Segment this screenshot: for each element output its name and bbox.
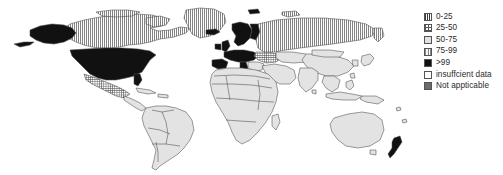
legend-item-50-75: 50-75 [424,34,500,46]
legend-swatch-not-applicable-icon [424,82,432,90]
world-map [0,0,420,175]
legend-item-25-50: 25-50 [424,23,500,35]
legend-swatch-0-25-icon [424,13,432,21]
region-iberia [212,59,228,69]
legend-swatch-insufficient-data-icon [424,71,432,79]
legend-label-50-75: 50-75 [436,36,457,44]
region-mongolia [312,50,344,57]
legend-item-0-25: 0-25 [424,11,500,23]
choropleth-figure: 0-25 25-50 50-75 75-99 >99 insuffcient d… [0,0,503,175]
legend-label-insufficient-data: insuffcient data [436,71,492,79]
legend-label-0-25: 0-25 [436,13,453,21]
world-map-svg [0,0,420,175]
region-taiwan [350,73,355,78]
region-ireland [215,44,221,50]
region-hispaniola [158,94,168,98]
map-legend: 0-25 25-50 50-75 75-99 >99 insuffcient d… [424,11,500,92]
region-korea [352,60,358,66]
legend-swatch-75-99-icon [424,48,432,56]
legend-swatch-50-75-icon [424,36,432,44]
legend-item-insufficient-data: insuffcient data [424,69,500,81]
legend-label-75-99: 75-99 [436,47,457,55]
legend-label-25-50: 25-50 [436,24,457,32]
legend-label-gt-99: >99 [436,59,450,67]
region-pacific-islands [396,107,401,111]
legend-item-75-99: 75-99 [424,46,500,58]
legend-swatch-gt-99-icon [424,59,432,67]
region-tasmania [370,150,376,155]
region-sri-lanka [312,90,316,94]
legend-item-gt-99: >99 [424,57,500,69]
region-svalbard [248,9,260,14]
region-fiji [402,119,407,123]
legend-swatch-25-50-icon [424,24,432,32]
legend-label-not-applicable: Not appticable [436,82,489,90]
legend-item-not-applicable: Not appticable [424,81,500,93]
